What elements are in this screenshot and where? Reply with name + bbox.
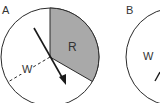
panel-a-label: A: [2, 4, 10, 16]
sector-w-label-b: W: [143, 50, 154, 62]
panel-a: A R W: [1, 4, 99, 103]
sector-r-label: R: [68, 40, 77, 54]
spinner-diagram: A R W B W: [0, 0, 160, 103]
sector-w-label: W: [22, 63, 33, 75]
panel-b-label: B: [126, 4, 133, 16]
panel-b: B W: [126, 4, 160, 103]
